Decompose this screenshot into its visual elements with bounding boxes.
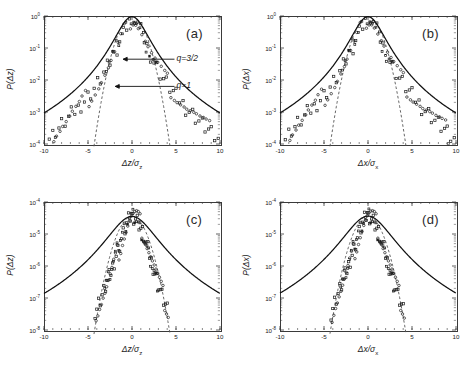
y-axis-label: P(Δx) xyxy=(241,239,251,291)
y-tick-label: 10-4 xyxy=(248,198,276,206)
y-tick-label: 10-5 xyxy=(12,230,40,238)
y-tick-label: 100 xyxy=(248,12,276,20)
y-tick-label: 10-4 xyxy=(12,140,40,148)
y-tick-label: 10-7 xyxy=(248,294,276,302)
chart-panel-d: -10-5051010-410-510-610-710-8Δx/σxP(Δx)(… xyxy=(236,186,472,372)
x-tick-label: -5 xyxy=(79,147,97,154)
y-tick-label: 10-3 xyxy=(248,108,276,116)
y-axis-label: P(Δx) xyxy=(241,53,251,105)
x-tick-label: 10 xyxy=(447,333,465,340)
annotation-q-1: q=1 xyxy=(176,80,190,90)
x-tick-label: 0 xyxy=(359,147,377,154)
y-tick-label: 10-3 xyxy=(12,108,40,116)
panel-label-c: (c) xyxy=(186,212,202,227)
x-tick-label: 5 xyxy=(167,333,185,340)
y-tick-label: 10-6 xyxy=(248,262,276,270)
x-tick-label: 5 xyxy=(403,147,421,154)
y-tick-label: 10-2 xyxy=(12,76,40,84)
y-tick-label: 10-8 xyxy=(12,326,40,334)
panel-label-a: (a) xyxy=(186,26,203,41)
annotation-arrow xyxy=(115,85,174,89)
y-tick-label: 10-1 xyxy=(248,44,276,52)
x-tick-label: 0 xyxy=(123,147,141,154)
chart-panel-b: -10-5051010010-110-210-310-4Δx/σxP(Δx)(b… xyxy=(236,0,472,186)
y-tick-label: 100 xyxy=(12,12,40,20)
annotation-q-3-2: q=3/2 xyxy=(176,53,198,63)
y-tick-label: 10-1 xyxy=(12,44,40,52)
y-axis-label: P(Δz) xyxy=(5,239,15,291)
chart-panel-a: -10-5051010010-110-210-310-4Δz/σzP(Δz)(a… xyxy=(0,0,236,186)
x-tick-label: 0 xyxy=(359,333,377,340)
x-tick-label: -5 xyxy=(315,333,333,340)
y-tick-label: 10-4 xyxy=(12,198,40,206)
panel-label-d: (d) xyxy=(422,212,439,227)
x-tick-label: 5 xyxy=(403,333,421,340)
y-axis-label: P(Δz) xyxy=(5,53,15,105)
x-tick-label: 10 xyxy=(211,147,229,154)
y-tick-label: 10-4 xyxy=(248,140,276,148)
annotation-arrow xyxy=(123,57,174,61)
y-tick-label: 10-2 xyxy=(248,76,276,84)
panel-label-b: (b) xyxy=(422,26,439,41)
x-tick-label: 5 xyxy=(167,147,185,154)
chart-panel-c: -10-5051010-410-510-610-710-8Δz/σzP(Δz)(… xyxy=(0,186,236,372)
y-tick-label: 10-5 xyxy=(248,230,276,238)
x-tick-label: 0 xyxy=(123,333,141,340)
x-axis-label: Δx/σx xyxy=(280,344,456,356)
x-tick-label: -5 xyxy=(79,333,97,340)
y-tick-label: 10-8 xyxy=(248,326,276,334)
y-tick-label: 10-7 xyxy=(12,294,40,302)
y-tick-label: 10-6 xyxy=(12,262,40,270)
x-tick-label: 10 xyxy=(211,333,229,340)
x-axis-label: Δz/σz xyxy=(44,344,220,356)
x-tick-label: 10 xyxy=(447,147,465,154)
x-axis-label: Δz/σz xyxy=(44,158,220,170)
x-axis-label: Δx/σx xyxy=(280,158,456,170)
figure-container: -10-5051010010-110-210-310-4Δz/σzP(Δz)(a… xyxy=(0,0,472,372)
x-tick-label: -5 xyxy=(315,147,333,154)
